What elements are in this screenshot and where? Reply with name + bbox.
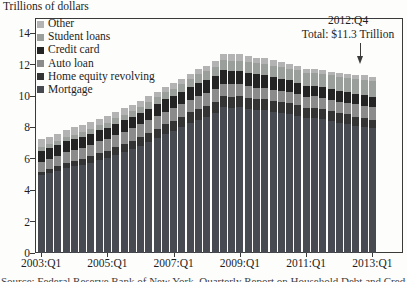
bar-segment-home-equity-revolving [129, 141, 136, 149]
bar-segment-student-loans [253, 63, 260, 74]
annotation-quarter: 2012:Q4 [288, 14, 407, 28]
bar-segment-student-loans [71, 135, 78, 139]
bar-segment-credit-card [195, 83, 202, 96]
bar-segment-home-equity-revolving [63, 163, 70, 168]
bar-segment-auto-loan [137, 124, 144, 137]
bar-segment-credit-card [71, 139, 78, 150]
bar-segment-student-loans [96, 125, 103, 130]
bar-segment-credit-card [154, 104, 161, 116]
bar-segment-mortgage [261, 110, 268, 253]
bar-segment-mortgage [286, 114, 293, 253]
bar-segment-other [112, 112, 119, 118]
legend-label: Other [48, 17, 74, 29]
y-axis-tick [30, 33, 35, 34]
bar-segment-credit-card [294, 83, 301, 94]
bar-segment-home-equity-revolving [261, 99, 268, 110]
bar-segment-home-equity-revolving [286, 103, 293, 114]
legend-label: Mortgage [48, 83, 93, 95]
bar-segment-other [178, 79, 185, 84]
bar-segment-auto-loan [286, 92, 293, 103]
bar-segment-home-equity-revolving [212, 102, 219, 113]
bar-segment-mortgage [278, 113, 285, 253]
bar-segment-auto-loan [270, 90, 277, 101]
bar-segment-credit-card [170, 96, 177, 108]
bar-segment-student-loans [270, 66, 277, 77]
bar-segment-mortgage [104, 158, 111, 253]
y-axis-label: 8 [8, 120, 30, 134]
bar-segment-auto-loan [178, 104, 185, 117]
annotation-arrowhead-icon [357, 56, 363, 64]
bar-segment-auto-loan [253, 88, 260, 99]
bar-segment-student-loans [369, 81, 376, 97]
bar-segment-home-equity-revolving [228, 97, 235, 108]
bar-segment-student-loans [54, 141, 61, 145]
legend-swatch-icon [37, 73, 44, 80]
legend-item-other: Other [37, 17, 155, 30]
bar-segment-home-equity-revolving [38, 172, 45, 176]
bar-segment-other [187, 74, 194, 79]
bar-segment-other [344, 74, 351, 77]
bar-segment-mortgage [203, 117, 210, 253]
bar-segment-other [336, 73, 343, 76]
bar-segment-credit-card [369, 97, 376, 107]
bar-segment-credit-card [129, 117, 136, 129]
bar-segment-other [328, 72, 335, 75]
bar-segment-credit-card [79, 137, 86, 148]
bar-segment-mortgage [303, 118, 310, 253]
bar-segment-student-loans [203, 71, 210, 80]
bar-segment-other [294, 66, 301, 71]
bar-segment-home-equity-revolving [137, 137, 144, 146]
bar-segment-student-loans [121, 115, 128, 121]
bar-segment-student-loans [63, 137, 70, 141]
bar-segment-student-loans [328, 75, 335, 89]
bar-segment-auto-loan [311, 96, 318, 107]
bar-segment-mortgage [137, 146, 144, 253]
bar-segment-home-equity-revolving [187, 112, 194, 123]
bar-segment-mortgage [63, 168, 70, 253]
bar-segment-other [278, 62, 285, 67]
bar-segment-auto-loan [352, 104, 359, 116]
y-axis-label: 12 [8, 58, 30, 72]
bar-segment-mortgage [195, 120, 202, 253]
bar-segment-other [369, 77, 376, 82]
bar-segment-auto-loan [220, 84, 227, 97]
chart-legend: OtherStudent loansCredit cardAuto loanHo… [37, 17, 155, 96]
bar-segment-auto-loan [195, 96, 202, 109]
legend-item-home-equity-revolving: Home equity revolving [37, 70, 155, 83]
bar-segment-credit-card [187, 87, 194, 100]
bar-segment-other [137, 101, 144, 107]
bar-segment-student-loans [294, 70, 301, 82]
bar-segment-other [145, 96, 152, 102]
bar-segment-other [63, 130, 70, 137]
legend-item-mortgage: Mortgage [37, 83, 155, 96]
bar-segment-mortgage [361, 127, 368, 253]
bar-segment-other [195, 69, 202, 74]
bar-segment-home-equity-revolving [344, 114, 351, 123]
bar-segment-home-equity-revolving [46, 169, 53, 173]
bar-segment-credit-card [270, 77, 277, 90]
bar-segment-home-equity-revolving [245, 98, 252, 109]
bar-segment-student-loans [112, 118, 119, 123]
bar-segment-mortgage [270, 112, 277, 253]
bar-segment-home-equity-revolving [336, 113, 343, 123]
bar-segment-home-equity-revolving [278, 102, 285, 113]
bar-segment-mortgage [336, 123, 343, 253]
bar-segment-auto-loan [245, 86, 252, 98]
bar-segment-student-loans [46, 144, 53, 148]
x-axis-label: 2003:Q1 [11, 257, 71, 269]
bar-segment-mortgage [129, 149, 136, 253]
bar-segment-auto-loan [170, 108, 177, 121]
bar-segment-mortgage [311, 118, 318, 253]
bar-segment-home-equity-revolving [203, 106, 210, 117]
bar-segment-home-equity-revolving [87, 156, 94, 162]
bar-segment-home-equity-revolving [170, 121, 177, 131]
bar-segment-home-equity-revolving [112, 147, 119, 155]
bar-segment-credit-card [38, 151, 45, 162]
annotation-leader-line [360, 43, 361, 57]
bar-segment-student-loans [361, 80, 368, 95]
bar-segment-auto-loan [121, 132, 128, 145]
bar-segment-mortgage [178, 127, 185, 253]
bar-segment-auto-loan [328, 100, 335, 111]
bar-segment-auto-loan [228, 84, 235, 96]
bar-segment-credit-card [319, 87, 326, 98]
